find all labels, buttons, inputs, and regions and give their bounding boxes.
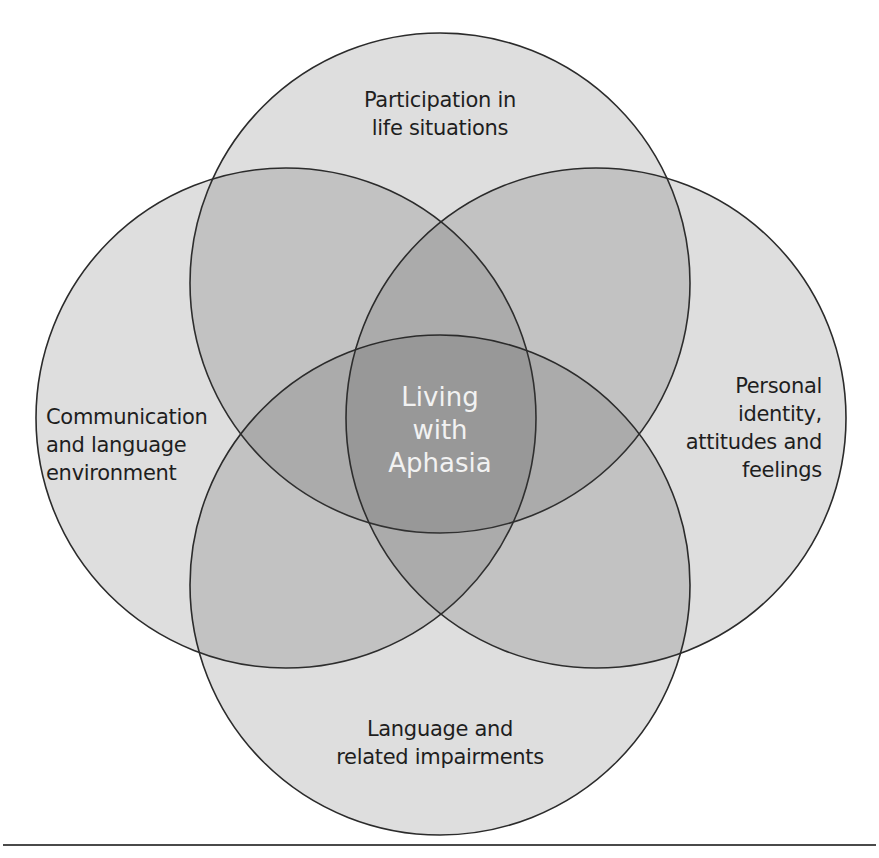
label-line: Language and	[320, 715, 560, 743]
center-label-living-with-aphasia: Living with Aphasia	[360, 381, 520, 480]
label-line: life situations	[330, 114, 550, 142]
label-line: environment	[46, 459, 256, 487]
center-line: Aphasia	[360, 447, 520, 480]
label-communication-environment: Communication and language environment	[46, 403, 256, 487]
label-personal-identity: Personal identity, attitudes and feeling…	[660, 372, 822, 484]
label-line: Participation in	[330, 86, 550, 114]
label-line: and language	[46, 431, 256, 459]
label-line: feelings	[660, 456, 822, 484]
label-line: Personal	[660, 372, 822, 400]
bottom-rule-divider	[3, 844, 876, 846]
center-line: with	[360, 414, 520, 447]
label-language-impairments: Language and related impairments	[320, 715, 560, 771]
center-line: Living	[360, 381, 520, 414]
label-participation: Participation in life situations	[330, 86, 550, 142]
label-line: Communication	[46, 403, 256, 431]
label-line: related impairments	[320, 743, 560, 771]
label-line: attitudes and	[660, 428, 822, 456]
label-line: identity,	[660, 400, 822, 428]
